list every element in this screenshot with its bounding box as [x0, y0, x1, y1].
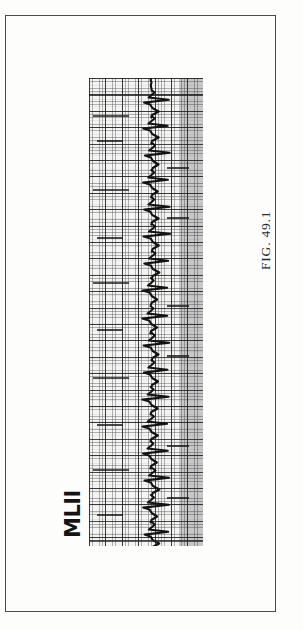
lead-label: MLII [60, 448, 86, 538]
ecg-rhythm-strip [89, 78, 203, 546]
ecg-trace-group [142, 78, 170, 546]
lead-label-text: MLII [61, 490, 85, 538]
ecg-trace-path [142, 78, 170, 546]
ecg-annotation-ticks [89, 116, 203, 541]
figure-caption: FIG. 49.1 [255, 150, 277, 270]
ecg-waveform [89, 78, 203, 546]
figure-caption-text: FIG. 49.1 [258, 211, 274, 270]
patent-page: MLII FIG. 49.1 [0, 0, 303, 629]
